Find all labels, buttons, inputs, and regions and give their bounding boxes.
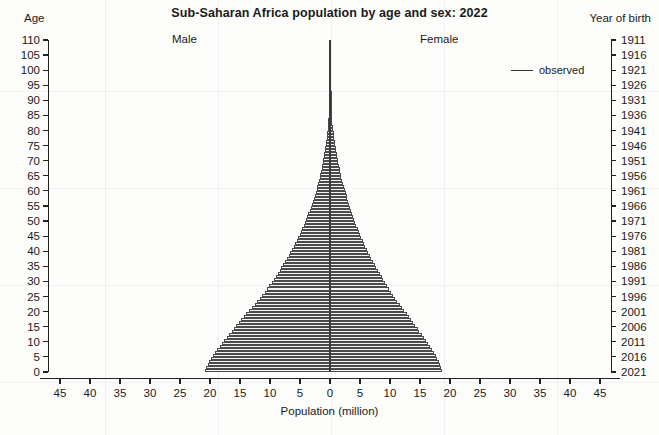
y-tick-label: 15 bbox=[27, 321, 40, 333]
x-tick bbox=[569, 379, 570, 384]
pyramid-bar bbox=[307, 215, 330, 218]
pyramid-bar bbox=[330, 300, 397, 303]
pyramid-bar bbox=[213, 354, 330, 357]
pyramid-bar bbox=[215, 351, 330, 354]
x-tick bbox=[209, 379, 210, 384]
pyramid-bar bbox=[274, 278, 330, 281]
x-tick-label: 15 bbox=[414, 387, 427, 399]
x-tick-label: 30 bbox=[504, 387, 517, 399]
y-tick-label: 95 bbox=[27, 79, 40, 91]
pyramid-bar bbox=[330, 152, 337, 155]
x-tick-label: 35 bbox=[114, 387, 127, 399]
pyramid-bar bbox=[305, 221, 330, 224]
pyramid-bar bbox=[312, 203, 330, 206]
pyramid-bar bbox=[330, 242, 364, 245]
y-tick-label: 55 bbox=[27, 200, 40, 212]
pyramid-bar bbox=[330, 324, 415, 327]
pyramid-bar bbox=[330, 239, 363, 242]
y2-tick-label: 2016 bbox=[621, 351, 647, 363]
pyramid-bar bbox=[330, 170, 340, 173]
pyramid-bar bbox=[224, 339, 330, 342]
pyramid-bar bbox=[330, 342, 428, 345]
x-tick bbox=[509, 379, 510, 384]
chart-title: Sub-Saharan Africa population by age and… bbox=[0, 6, 659, 20]
x-tick-label: 25 bbox=[174, 387, 187, 399]
pyramid-bar bbox=[330, 254, 370, 257]
pyramid-bar bbox=[298, 236, 330, 239]
pyramid-bar bbox=[330, 354, 436, 357]
pyramid-bar bbox=[330, 306, 402, 309]
y-tick-label: 30 bbox=[27, 275, 40, 287]
pyramid-bar bbox=[246, 312, 330, 315]
x-tick bbox=[89, 379, 90, 384]
pyramid-bar bbox=[330, 291, 391, 294]
y2-tick-label: 1911 bbox=[621, 34, 646, 46]
plot-area: 0510152025303540455055606570758085909510… bbox=[48, 40, 612, 372]
y2-tick-label: 1921 bbox=[621, 64, 647, 76]
pyramid-bar bbox=[244, 315, 330, 318]
pyramid-bar bbox=[330, 140, 335, 143]
pyramid-bar bbox=[330, 339, 426, 342]
pyramid-bar bbox=[257, 300, 330, 303]
pyramid-bar bbox=[304, 224, 330, 227]
x-tick-label: 35 bbox=[534, 387, 547, 399]
x-tick-label: 5 bbox=[357, 387, 363, 399]
x-tick-label: 15 bbox=[234, 387, 247, 399]
pyramid-bar bbox=[292, 248, 330, 251]
pyramid-bar bbox=[330, 227, 358, 230]
y-tick-label: 25 bbox=[27, 291, 40, 303]
pyramid-bar bbox=[262, 294, 330, 297]
pyramid-bar bbox=[239, 321, 330, 324]
pyramid-bar bbox=[330, 209, 351, 212]
x-tick bbox=[299, 379, 300, 384]
x-tick bbox=[59, 379, 60, 384]
pyramid-bar bbox=[330, 236, 361, 239]
x-tick-label: 45 bbox=[594, 387, 607, 399]
pyramid-bar bbox=[269, 284, 330, 287]
pyramid-bar bbox=[314, 197, 330, 200]
x-tick-label: 40 bbox=[564, 387, 577, 399]
pyramid-bar bbox=[330, 146, 336, 149]
y-tick-label: 100 bbox=[21, 64, 40, 76]
y2-tick-label: 2011 bbox=[621, 336, 646, 348]
pyramid-bar bbox=[316, 191, 330, 194]
y2-tick-label: 1976 bbox=[621, 230, 647, 242]
pyramid-bar bbox=[330, 233, 360, 236]
pyramid-bar bbox=[217, 348, 330, 351]
pyramid-bar bbox=[260, 297, 330, 300]
pyramid-bar bbox=[302, 227, 330, 230]
y2-tick-label: 1926 bbox=[621, 79, 647, 91]
center-axis-line bbox=[329, 40, 330, 372]
pyramid-bar bbox=[308, 212, 330, 215]
pyramid-bar bbox=[330, 188, 345, 191]
pyramid-bar bbox=[330, 272, 380, 275]
pyramid-bar bbox=[330, 303, 400, 306]
y-tick-label: 45 bbox=[27, 230, 40, 242]
x-tick bbox=[479, 379, 480, 384]
pyramid-bar bbox=[236, 324, 330, 327]
y2-tick-label: 1931 bbox=[621, 94, 647, 106]
pyramid-bar bbox=[287, 257, 330, 260]
pyramid-bar bbox=[241, 318, 330, 321]
pyramid-bar bbox=[234, 327, 330, 330]
x-tick-label: 25 bbox=[474, 387, 487, 399]
x-tick bbox=[119, 379, 120, 384]
pyramid-bar bbox=[283, 263, 330, 266]
pyramid-bar bbox=[211, 357, 330, 360]
y2-tick-label: 1991 bbox=[621, 275, 647, 287]
population-pyramid-chart: Sub-Saharan Africa population by age and… bbox=[0, 0, 659, 435]
x-tick bbox=[389, 379, 390, 384]
y-tick-label: 40 bbox=[27, 245, 40, 257]
pyramid-bar bbox=[330, 182, 343, 185]
pyramid-bar bbox=[330, 348, 432, 351]
pyramid-bar bbox=[330, 218, 354, 221]
pyramid-bar bbox=[311, 206, 330, 209]
pyramid-bar bbox=[330, 251, 368, 254]
y-tick-label: 65 bbox=[27, 170, 40, 182]
pyramid-bar bbox=[330, 155, 337, 158]
pyramid-bar bbox=[330, 167, 340, 170]
pyramid-bar bbox=[330, 345, 430, 348]
pyramid-bar bbox=[330, 248, 367, 251]
pyramid-bar bbox=[330, 312, 407, 315]
x-tick-label: 45 bbox=[54, 387, 67, 399]
